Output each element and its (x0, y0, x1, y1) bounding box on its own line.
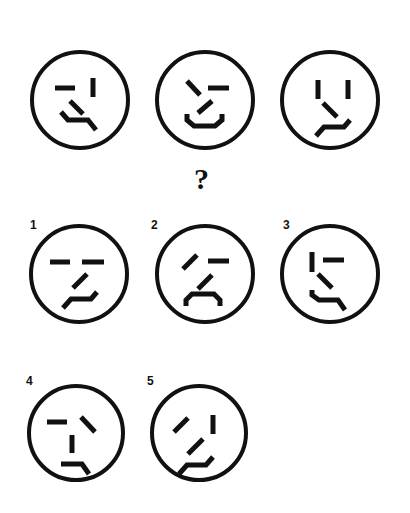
sequence-face-1 (28, 48, 132, 152)
option-face-2[interactable] (153, 222, 257, 326)
question-mark: ? (194, 162, 209, 196)
option-face-5[interactable] (148, 382, 250, 484)
option-face-4[interactable] (25, 382, 127, 484)
sequence-face-3 (278, 48, 382, 152)
option-face-1[interactable] (27, 222, 131, 326)
sequence-face-2 (153, 48, 257, 152)
option-face-3[interactable] (278, 222, 382, 326)
